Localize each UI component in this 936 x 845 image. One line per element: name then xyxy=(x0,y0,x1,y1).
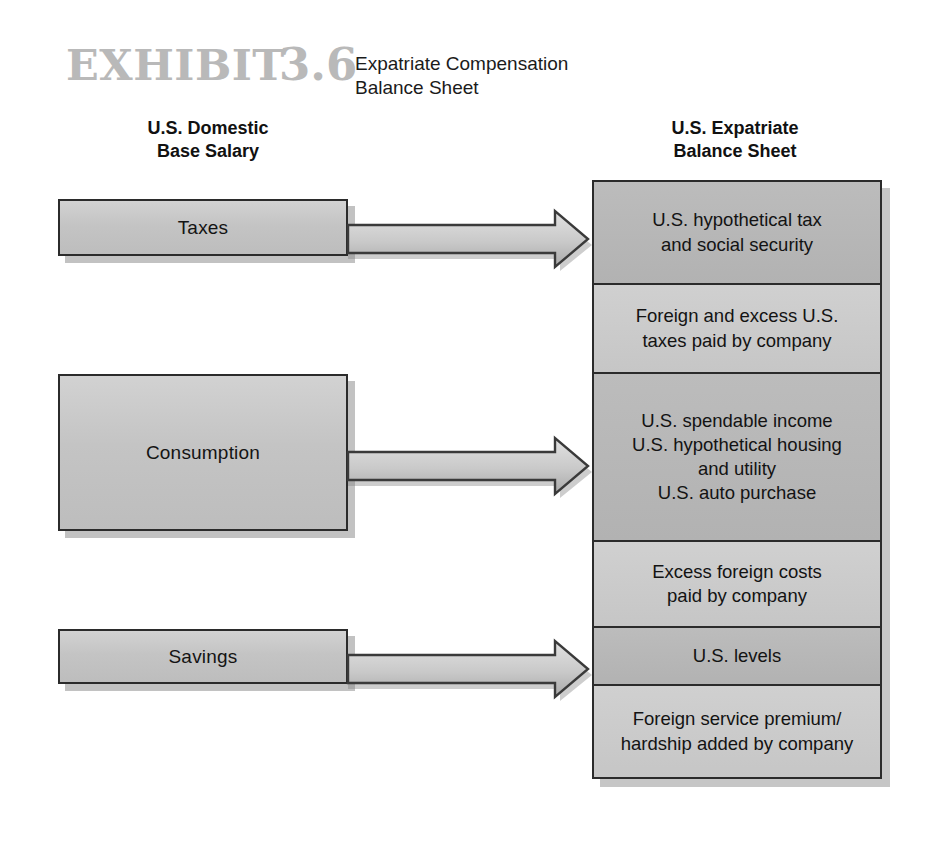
left-box-consumption: Consumption xyxy=(58,374,348,531)
right-box-foreign-service-premium-label: Foreign service premium/ hardship added … xyxy=(621,707,853,755)
arrow-taxes-icon xyxy=(344,203,596,275)
left-box-taxes-label: Taxes xyxy=(178,217,229,239)
right-box-foreign-excess-taxes-label: Foreign and excess U.S. taxes paid by co… xyxy=(636,304,839,352)
exhibit-label: EXHIBIT xyxy=(66,44,285,87)
right-box-spendable-income: U.S. spendable income U.S. hypothetical … xyxy=(594,374,880,542)
right-box-us-levels-label: U.S. levels xyxy=(693,644,781,668)
exhibit-figure: EXHIBIT 3.6 Expatriate Compensation Bala… xyxy=(0,0,936,845)
left-column-heading: U.S. Domestic Base Salary xyxy=(73,117,343,164)
right-box-hypothetical-tax: U.S. hypothetical tax and social securit… xyxy=(594,182,880,285)
exhibit-number: 3.6 xyxy=(279,42,357,87)
arrow-consumption-icon xyxy=(344,430,596,502)
right-box-spendable-income-label: U.S. spendable income U.S. hypothetical … xyxy=(632,409,842,505)
right-box-us-levels: U.S. levels xyxy=(594,628,880,686)
arrow-savings-icon xyxy=(344,633,596,705)
left-box-savings-label: Savings xyxy=(169,646,238,668)
right-column-stack: U.S. hypothetical tax and social securit… xyxy=(592,180,882,779)
right-box-foreign-service-premium: Foreign service premium/ hardship added … xyxy=(594,686,880,777)
right-column-heading: U.S. Expatriate Balance Sheet xyxy=(588,117,882,164)
left-box-savings: Savings xyxy=(58,629,348,684)
left-box-consumption-label: Consumption xyxy=(146,442,260,464)
right-box-excess-foreign-costs-label: Excess foreign costs paid by company xyxy=(652,560,822,608)
right-box-hypothetical-tax-label: U.S. hypothetical tax and social securit… xyxy=(652,208,822,256)
right-box-excess-foreign-costs: Excess foreign costs paid by company xyxy=(594,542,880,628)
exhibit-title: Expatriate Compensation Balance Sheet xyxy=(355,52,568,101)
right-box-foreign-excess-taxes: Foreign and excess U.S. taxes paid by co… xyxy=(594,285,880,374)
left-box-taxes: Taxes xyxy=(58,199,348,256)
